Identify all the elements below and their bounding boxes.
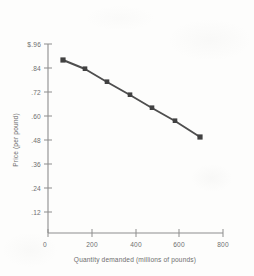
- x-axis-title: Quantity demanded (millions of pounds): [74, 256, 196, 264]
- demand-series-line: [63, 60, 200, 137]
- y-axis-title: Price (per pound): [12, 113, 20, 167]
- x-tick-label: 800: [217, 241, 229, 248]
- axes-group: [48, 44, 223, 233]
- data-point-marker: [60, 57, 65, 62]
- data-point-marker: [173, 118, 178, 123]
- y-tick-label: .60: [31, 113, 41, 120]
- data-point-marker: [128, 92, 133, 97]
- x-tick-label: 0: [43, 241, 47, 248]
- y-tick-label: .36: [31, 161, 41, 168]
- y-tick-label: .72: [31, 89, 41, 96]
- y-tick-label: .48: [31, 137, 41, 144]
- x-tick-labels-group: 0 200 400 600 800: [43, 241, 229, 248]
- x-tick-label: 200: [86, 241, 98, 248]
- y-tick-label: .24: [31, 185, 41, 192]
- data-point-marker: [83, 66, 88, 71]
- y-tick-label: .12: [31, 209, 41, 216]
- x-tick-label: 400: [130, 241, 142, 248]
- chart-page: $.96 .84 .72 .60 .48 .36 .24 .12 0 200 4…: [0, 0, 254, 276]
- data-point-marker: [150, 105, 155, 110]
- data-point-marker: [197, 134, 202, 139]
- x-tick-label: 600: [173, 241, 185, 248]
- demand-series-group: [60, 57, 202, 139]
- y-tick-label: $.96: [27, 41, 41, 48]
- demand-curve-chart: $.96 .84 .72 .60 .48 .36 .24 .12 0 200 4…: [0, 0, 254, 276]
- y-tick-labels-group: $.96 .84 .72 .60 .48 .36 .24 .12: [27, 41, 41, 216]
- data-point-marker: [105, 79, 110, 84]
- y-tick-label: .84: [31, 65, 41, 72]
